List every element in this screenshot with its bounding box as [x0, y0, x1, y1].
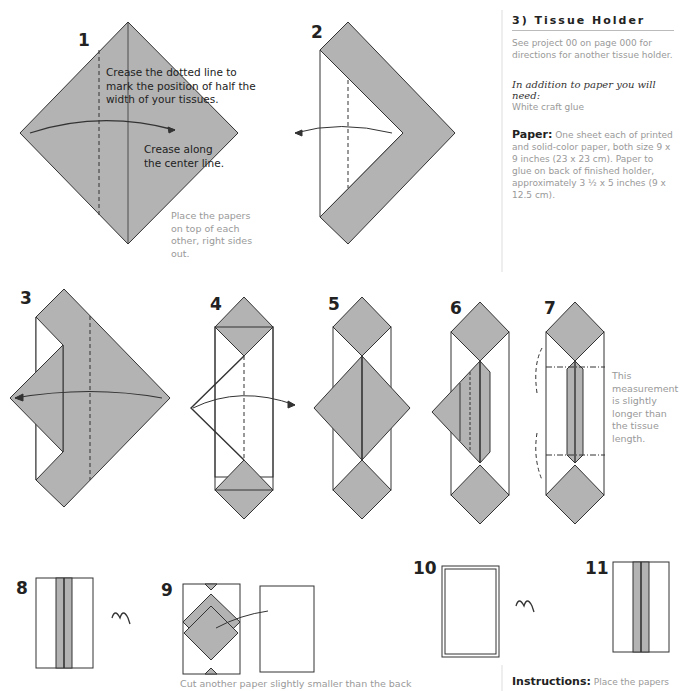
step-number: 1 — [78, 30, 90, 50]
step-number: 11 — [585, 558, 609, 578]
step-6-diagram — [432, 302, 509, 524]
turn-over-icon — [112, 613, 130, 624]
step-3-diagram — [10, 289, 170, 507]
paper-label: Paper: — [512, 128, 552, 141]
project-intro: See project 00 on page 000 for direction… — [512, 37, 674, 61]
step-8-diagram — [36, 578, 93, 668]
step-number: 3 — [20, 288, 32, 308]
instructions-section: Instructions: Place the papers — [512, 676, 681, 688]
paper-section: Paper: One sheet each of printed and sol… — [512, 129, 674, 201]
step-1-center-note: Crease along the center line. — [144, 143, 224, 170]
paper-text: One sheet each of printed and solid-colo… — [512, 130, 673, 200]
step-number: 2 — [311, 22, 323, 42]
materials-items: White craft glue — [512, 101, 674, 113]
step-1-crease-note: Crease the dotted line to mark the posit… — [106, 66, 256, 107]
step-1-place-note: Place the papers on top of each other, r… — [171, 210, 261, 260]
project-sidebar: 3) Tissue Holder See project 00 on page … — [512, 14, 674, 201]
step-11-diagram — [613, 562, 669, 652]
step-number: 10 — [413, 558, 437, 578]
step-4-diagram — [191, 297, 295, 519]
step-9-cut-note: Cut another paper slightly smaller than … — [180, 678, 440, 691]
step-number: 6 — [450, 298, 462, 318]
instructions-text: Place the papers — [594, 677, 669, 687]
step-number: 9 — [161, 580, 173, 600]
instructions-label: Instructions: — [512, 675, 591, 688]
step-5-diagram — [314, 297, 410, 519]
step-2-diagram — [295, 22, 455, 244]
step-7-measure-note: This measurement is slightly longer than… — [612, 370, 674, 445]
step-9-diagram — [183, 584, 314, 674]
materials-heading: In addition to paper you will need: — [512, 79, 674, 101]
step-10-diagram — [442, 566, 499, 657]
step-number: 4 — [210, 294, 222, 314]
step-number: 5 — [328, 294, 340, 314]
step-number: 7 — [544, 298, 556, 318]
step-7-diagram — [536, 302, 605, 524]
turn-over-icon — [516, 601, 534, 612]
step-number: 8 — [16, 578, 28, 598]
project-title: 3) Tissue Holder — [512, 14, 674, 31]
